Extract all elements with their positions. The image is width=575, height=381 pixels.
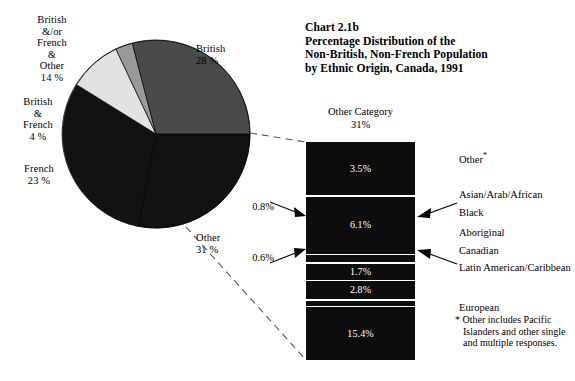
footnote: * Other includes Pacific Islanders and o… [455,314,575,349]
footnote-text: Other includes Pacific Islanders and oth… [463,314,566,348]
callout-arrows-left [270,195,310,270]
callout-latin-value: 0.6% [232,252,274,263]
callout-black-value: 0.8% [232,201,274,212]
bar-label-canadian: Canadian [459,245,499,257]
bar-label-latin: Latin American/Caribbean [459,262,571,274]
bar-segment-asian[interactable]: 6.1% [306,197,415,254]
arrow-to-black-icon [270,202,306,217]
bar-segment-black[interactable] [306,255,415,262]
bar-label-asian: Asian/Arab/African [459,189,542,201]
bar-segment-asian-value: 6.1% [350,220,371,230]
bar-segment-aboriginal[interactable]: 1.7% [306,264,415,280]
arrow-to-latin-icon [270,248,306,263]
connector-line-top [250,133,306,142]
bar-label-other: Other* [459,150,487,165]
bar-label-aboriginal: Aboriginal [459,227,505,239]
footnote-marker-ref: * [483,151,487,160]
arrow-to-latin-right-icon [417,249,457,264]
bar-segment-other-value: 3.5% [350,164,371,174]
bar-header: Other Category 31% [306,106,415,131]
bar-segment-canadian[interactable]: 2.8% [306,281,415,299]
arrow-to-black-right-icon [417,203,457,218]
bar-label-black: Black [459,207,484,219]
bar-label-european: European [459,302,499,314]
bar-header-label: Other Category [306,106,415,119]
bar-label-other-text: Other [459,154,483,165]
bar-segment-other[interactable]: 3.5% [306,142,415,195]
bar-segment-european-value: 15.4% [347,329,373,339]
footnote-marker: * [455,314,460,325]
bar-segment-european[interactable]: 15.4% [306,307,415,360]
bar-header-value: 31% [306,119,415,132]
callout-arrows-right [413,195,459,270]
stacked-bar: 3.5% 6.1% 1.7% 2.8% 15.4% [306,142,415,360]
bar-segment-canadian-value: 2.8% [350,285,371,295]
bar-segment-aboriginal-value: 1.7% [350,267,371,277]
